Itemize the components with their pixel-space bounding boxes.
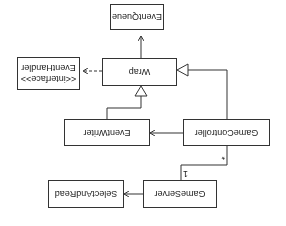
class-gamecontroller-name: GameController	[195, 127, 259, 138]
class-selectandread-name: SelectAndRead	[55, 189, 118, 200]
class-wrap-name: Wrap	[129, 67, 150, 78]
class-eventqueue[interactable]: EventQueue	[110, 4, 164, 30]
class-eventhandler-name: EventHandler	[21, 63, 76, 74]
class-eventwriter[interactable]: EventWriter	[64, 119, 150, 146]
multiplicity-many: *	[221, 152, 225, 162]
class-selectandread[interactable]: SelectAndRead	[48, 180, 124, 208]
class-eventhandler[interactable]: <<interface>> EventHandler	[17, 57, 80, 90]
class-gameserver[interactable]: GameServer	[143, 180, 217, 208]
class-eventwriter-name: EventWriter	[84, 127, 131, 138]
generalization-triangle-side	[177, 64, 188, 76]
class-wrap[interactable]: Wrap	[102, 58, 177, 86]
class-eventhandler-stereotype: <<interface>>	[21, 74, 77, 85]
eventwriter-to-wrap-line	[107, 96, 141, 119]
class-gameserver-name: GameServer	[154, 189, 205, 200]
generalization-triangle-bottom	[135, 86, 147, 96]
class-gamecontroller[interactable]: GameController	[183, 119, 270, 146]
uml-diagram-canvas: EventQueue <<interface>> EventHandler Wr…	[0, 0, 286, 226]
class-eventqueue-name: EventQueue	[112, 12, 162, 23]
gamecontroller-to-wrap-line	[188, 70, 227, 119]
multiplicity-one: 1	[183, 169, 188, 179]
